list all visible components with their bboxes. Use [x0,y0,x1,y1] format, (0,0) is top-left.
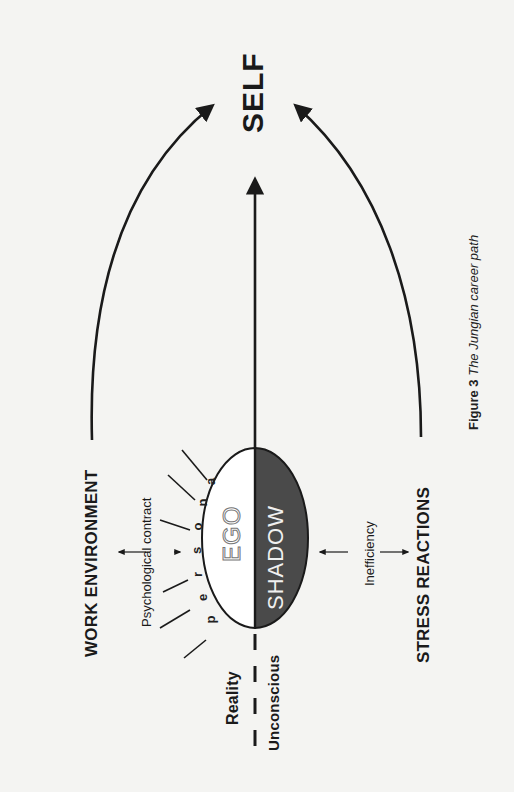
persona-letter-r: r [190,572,205,577]
work-environment-label: WORK ENVIRONMENT [82,470,102,657]
persona-letter-s: s [189,547,204,554]
persona-letter-n: n [195,499,210,507]
ego-label: EGO [218,506,246,562]
psychological-contract-label: Psychological contract [139,498,154,627]
persona-letter-o: o [190,523,205,531]
caption-number: Figure 3 [466,379,481,430]
reality-label: Reality [224,671,242,725]
shadow-label: SHADOW [263,505,289,610]
figure-caption: Figure 3 The Jungian career path [466,235,481,430]
persona-letter-p: p [203,616,218,624]
work-environment-arrow [92,106,212,440]
persona-letter-a: a [203,478,218,485]
inefficiency-label: Inefficiency [362,521,377,586]
self-label: SELF [236,52,270,133]
caption-title: The Jungian career path [466,235,481,376]
stress-reactions-arrow [296,106,421,437]
unconscious-label: Unconscious [265,655,282,751]
persona-letter-e: e [195,594,210,601]
figure-page: SELF WORK ENVIRONMENT Psychological cont… [0,0,514,792]
stress-reactions-label: STRESS REACTIONS [414,487,434,663]
